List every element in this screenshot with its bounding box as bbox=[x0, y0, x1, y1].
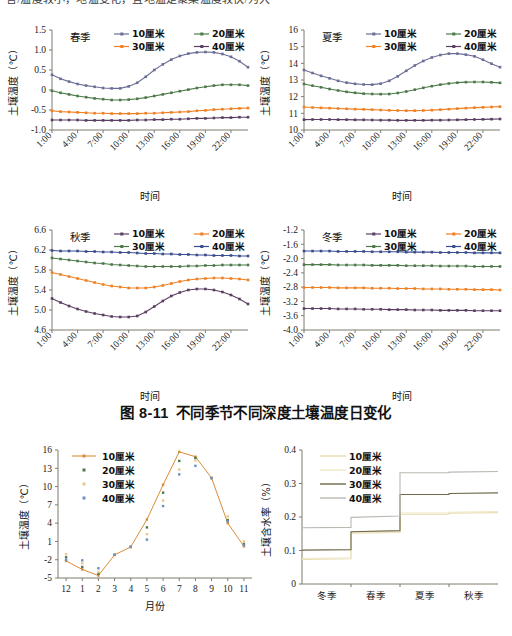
data-point bbox=[482, 106, 485, 109]
x-tick-label: 19:00 bbox=[184, 130, 207, 153]
data-point bbox=[303, 69, 306, 72]
data-point bbox=[68, 250, 71, 253]
data-point bbox=[371, 287, 374, 290]
legend-item-20厘米: 20厘米 bbox=[446, 28, 497, 39]
data-point bbox=[328, 107, 331, 110]
data-point bbox=[422, 251, 425, 254]
y-tick-label: -2.4 bbox=[283, 268, 298, 278]
data-point bbox=[221, 277, 224, 280]
x-tick-label: 12 bbox=[61, 584, 71, 594]
data-point bbox=[76, 250, 79, 253]
series-10厘米 bbox=[51, 51, 250, 90]
data-point bbox=[499, 252, 502, 255]
data-point bbox=[76, 260, 79, 263]
data-point bbox=[473, 118, 476, 121]
data-point bbox=[328, 250, 331, 253]
legend-item-30厘米: 30厘米 bbox=[114, 41, 165, 52]
legend-label: 40厘米 bbox=[349, 493, 382, 504]
series-20厘米 bbox=[303, 286, 502, 291]
data-point bbox=[85, 279, 88, 282]
data-point bbox=[76, 95, 79, 98]
data-point bbox=[362, 83, 365, 86]
data-point bbox=[170, 58, 173, 61]
y-axis-title: 土壤温度（℃） bbox=[259, 244, 271, 315]
data-point bbox=[362, 92, 365, 95]
data-point bbox=[178, 451, 180, 453]
season-label: 秋季 bbox=[70, 231, 91, 243]
legend-label: 40厘米 bbox=[464, 241, 497, 252]
data-point bbox=[473, 252, 476, 255]
data-point bbox=[146, 538, 148, 540]
data-point bbox=[161, 284, 164, 287]
x-axis-title: 时间 bbox=[392, 190, 412, 202]
data-point bbox=[422, 288, 425, 291]
data-point bbox=[371, 83, 374, 86]
data-point bbox=[51, 74, 54, 77]
data-point bbox=[161, 118, 164, 121]
data-point bbox=[371, 108, 374, 111]
data-point bbox=[119, 286, 122, 289]
x-tick-label: 4 bbox=[128, 584, 133, 594]
x-tick-label: 5 bbox=[145, 584, 150, 594]
data-point bbox=[473, 309, 476, 312]
data-point bbox=[379, 308, 382, 311]
data-point bbox=[247, 255, 250, 258]
data-point bbox=[345, 91, 348, 94]
legend-swatch-marker bbox=[83, 455, 86, 458]
data-point bbox=[320, 286, 323, 289]
data-point bbox=[413, 88, 416, 91]
data-point bbox=[76, 111, 79, 114]
data-point bbox=[456, 119, 459, 122]
legend-label: 20厘米 bbox=[102, 465, 135, 476]
data-point bbox=[153, 252, 156, 255]
series-line bbox=[52, 52, 248, 88]
data-point bbox=[85, 310, 88, 313]
data-point bbox=[81, 559, 83, 561]
legend-swatch-marker bbox=[120, 245, 123, 248]
y-tick-label: 4 bbox=[47, 518, 52, 528]
data-point bbox=[473, 265, 476, 268]
data-point bbox=[97, 567, 99, 569]
y-tick-label: 6.6 bbox=[34, 225, 46, 235]
data-point bbox=[221, 53, 224, 56]
data-point bbox=[439, 119, 442, 122]
data-point bbox=[230, 108, 233, 111]
data-point bbox=[102, 112, 105, 115]
data-point bbox=[238, 107, 241, 110]
data-point bbox=[238, 278, 241, 281]
data-point bbox=[144, 76, 147, 79]
y-tick-label: -1.2 bbox=[283, 225, 298, 235]
data-point bbox=[187, 52, 190, 55]
data-point bbox=[482, 252, 485, 255]
data-point bbox=[337, 287, 340, 290]
x-tick-label: 13:00 bbox=[385, 130, 408, 153]
data-point bbox=[196, 288, 199, 291]
data-point bbox=[247, 116, 250, 119]
data-point bbox=[93, 86, 96, 89]
data-point bbox=[328, 118, 331, 121]
legend-item-30厘米: 30厘米 bbox=[320, 479, 382, 490]
legend-label: 10厘米 bbox=[384, 228, 417, 239]
data-point bbox=[456, 288, 459, 291]
data-point bbox=[187, 265, 190, 268]
legend-swatch-marker bbox=[372, 245, 375, 248]
series-line bbox=[304, 265, 500, 267]
data-point bbox=[113, 554, 115, 556]
x-tick-label: 10:00 bbox=[360, 330, 383, 353]
data-point bbox=[328, 88, 331, 91]
data-point bbox=[499, 309, 502, 312]
series-line bbox=[304, 119, 500, 120]
plot-area-monthly: -5-2147101316121234567891011月份土壤温度（℃）10厘… bbox=[18, 428, 260, 636]
data-point bbox=[456, 81, 459, 84]
data-point bbox=[371, 119, 374, 122]
data-point bbox=[144, 265, 147, 268]
x-tick-label: 7:00 bbox=[338, 130, 357, 149]
y-tick-label: 1.5 bbox=[34, 25, 46, 35]
x-tick-label: 16:00 bbox=[411, 130, 434, 153]
data-point bbox=[51, 297, 54, 300]
data-point bbox=[362, 108, 365, 111]
y-tick-label: 0.1 bbox=[284, 546, 296, 556]
data-point bbox=[439, 83, 442, 86]
data-point bbox=[238, 116, 241, 119]
data-point bbox=[162, 505, 164, 507]
